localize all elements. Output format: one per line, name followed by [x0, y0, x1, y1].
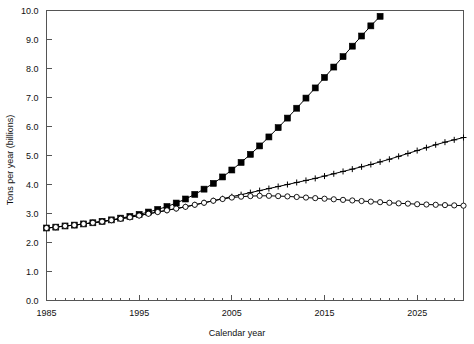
y-tick-label: 2.0	[26, 238, 39, 248]
x-tick-label: 2025	[407, 308, 427, 318]
x-tick-label: 1995	[129, 308, 149, 318]
series-moderate-growth	[44, 135, 467, 231]
y-tick-label: 4.0	[26, 180, 39, 190]
y-tick-label: 3.0	[26, 209, 39, 219]
y-tick-label: 7.0	[26, 93, 39, 103]
data-series-layer	[44, 13, 467, 231]
y-tick-label: 1.0	[26, 267, 39, 277]
series-stabilization	[44, 193, 466, 230]
chart-container: 19851995200520152025 0.01.02.03.04.05.06…	[0, 0, 474, 344]
x-axis-tick-labels: 19851995200520152025	[36, 308, 427, 318]
y-tick-label: 5.0	[26, 151, 39, 161]
y-tick-label: 10.0	[21, 6, 39, 16]
x-axis-ticks	[47, 295, 464, 301]
y-axis-title: Tons per year (billions)	[5, 115, 15, 206]
y-tick-label: 8.0	[26, 64, 39, 74]
chart-plot: 19851995200520152025 0.01.02.03.04.05.06…	[0, 0, 474, 344]
y-tick-label: 6.0	[26, 122, 39, 132]
x-tick-label: 1985	[36, 308, 56, 318]
y-tick-label: 0.0	[26, 296, 39, 306]
y-axis-tick-labels: 0.01.02.03.04.05.06.07.08.09.010.0	[21, 6, 39, 306]
y-tick-label: 9.0	[26, 35, 39, 45]
x-tick-label: 2005	[222, 308, 242, 318]
x-tick-label: 2015	[314, 308, 334, 318]
x-axis-title: Calendar year	[209, 328, 266, 338]
y-axis-ticks	[47, 11, 52, 301]
